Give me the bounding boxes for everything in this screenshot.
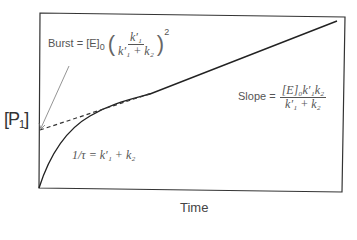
burst-extrapolation-dashed-line: [40, 93, 152, 130]
tau-annotation: 1/τ = k′₁ + k₂: [72, 148, 135, 163]
x-axis-label: Time: [180, 200, 208, 215]
burst-leader-line: [41, 66, 69, 128]
slope-annotation: Slope = [E]₀k′₁k₂k′₁ + k₂: [238, 84, 327, 111]
y-axis-label: [P1]: [4, 109, 28, 130]
burst-annotation: Burst = [E]0 (k′₁k′₁ + k₂)2: [48, 27, 169, 58]
